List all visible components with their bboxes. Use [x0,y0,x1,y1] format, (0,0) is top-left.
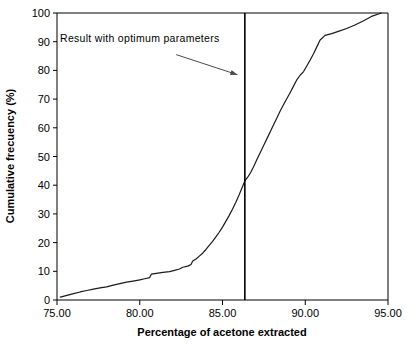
y-tick-label: 40 [38,179,50,191]
x-tick-label: 80.00 [126,307,154,319]
chart-background [0,0,416,348]
y-tick-label: 20 [38,237,50,249]
y-tick-label: 60 [38,122,50,134]
y-tick-label: 100 [32,7,50,19]
chart-figure: 0102030405060708090100 75.0080.0085.0090… [0,0,416,348]
y-tick-label: 80 [38,64,50,76]
y-axis-title: Cumulative frecuency (%) [4,88,16,223]
cumulative-frequency-chart: 0102030405060708090100 75.0080.0085.0090… [0,0,416,348]
x-tick-label: 90.00 [291,307,319,319]
y-tick-label: 90 [38,36,50,48]
y-tick-label: 50 [38,151,50,163]
x-tick-label: 95.00 [374,307,402,319]
y-tick-label: 0 [44,294,50,306]
x-tick-label: 75.00 [43,307,71,319]
y-tick-label: 70 [38,93,50,105]
x-axis-title: Percentage of acetone extracted [137,326,306,338]
annotation-label: Result with optimum parameters [60,32,220,44]
x-tick-label: 85.00 [209,307,237,319]
y-tick-label: 30 [38,208,50,220]
y-tick-label: 10 [38,265,50,277]
